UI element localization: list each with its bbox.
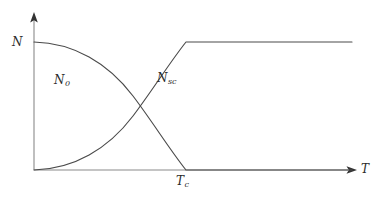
tc-annotation-base: T (176, 174, 184, 188)
vertical-axis (30, 12, 38, 170)
curve-label-n0-base: N (54, 73, 65, 87)
figure-canvas: N T N0 Nsc Tc (0, 0, 378, 198)
y-axis-label: N (12, 36, 23, 48)
curve-label-n0-subscript: 0 (65, 79, 70, 88)
curve-n0 (34, 42, 352, 170)
curve-nsc (34, 42, 352, 170)
tc-axis-annotation: Tc (176, 175, 189, 187)
tc-annotation-subscript: c (185, 180, 189, 189)
curve-label-nsc: Nsc (157, 72, 176, 84)
x-axis-label: T (361, 163, 369, 175)
plot-area (0, 0, 378, 198)
curve-label-n0: N0 (54, 74, 70, 86)
curve-label-nsc-subscript: sc (168, 77, 177, 86)
curve-label-nsc-base: N (157, 71, 168, 85)
